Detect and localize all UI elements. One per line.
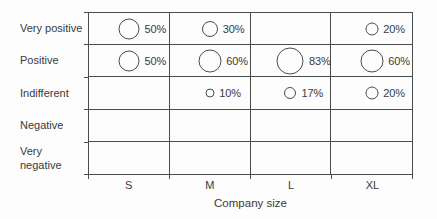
column-label: M <box>169 179 250 191</box>
x-axis-title: Company size <box>88 197 413 209</box>
bubble-value-label: 60% <box>388 55 410 67</box>
grid-cell <box>251 13 332 45</box>
bubble-value-label: 17% <box>301 87 323 99</box>
grid-cell: 17% <box>251 77 332 109</box>
bubble-value-label: 60% <box>226 55 248 67</box>
grid-cell <box>251 142 332 174</box>
bubble-value-label: 50% <box>144 55 166 67</box>
x-axis-labels: SMLXL <box>88 179 413 191</box>
bubble <box>360 49 383 72</box>
y-axis-labels: Very positivePositiveIndifferentNegative… <box>0 12 88 175</box>
grid-cell <box>170 142 251 174</box>
bubble-value-label: 10% <box>219 87 241 99</box>
bubble <box>198 49 221 72</box>
bubble <box>118 18 139 39</box>
grid-cell <box>331 110 412 142</box>
grid-cell: 60% <box>331 45 412 77</box>
bubble-value-label: 20% <box>383 87 405 99</box>
grid-cell: 60% <box>170 45 251 77</box>
bubble <box>202 21 218 37</box>
bubble <box>277 47 304 74</box>
grid-cell <box>89 77 170 109</box>
bubble <box>118 50 139 71</box>
grid-cell: 30% <box>170 13 251 45</box>
grid-cell <box>89 142 170 174</box>
bubble <box>205 88 214 97</box>
grid-cell: 20% <box>331 77 412 109</box>
column-label: S <box>88 179 169 191</box>
bubble <box>365 22 378 35</box>
bubble-matrix-chart: Very positivePositiveIndifferentNegative… <box>0 0 437 219</box>
grid-cell <box>331 142 412 174</box>
row-label: Negative <box>0 110 88 143</box>
row-label: Positive <box>0 45 88 78</box>
row-label: Indifferent <box>0 77 88 110</box>
grid-cell: 20% <box>331 13 412 45</box>
bubble <box>284 87 296 99</box>
row-label: Very positive <box>0 12 88 45</box>
column-label: L <box>251 179 332 191</box>
bubble-value-label: 20% <box>383 23 405 35</box>
grid-cell: 10% <box>170 77 251 109</box>
grid-cell <box>251 110 332 142</box>
grid-cell: 50% <box>89 13 170 45</box>
chart-grid: 50%30%20%50%60%83%60%10%17%20% <box>88 12 413 175</box>
bubble-value-label: 50% <box>144 23 166 35</box>
bubble-value-label: 30% <box>223 23 245 35</box>
column-label: XL <box>332 179 413 191</box>
row-label: Very negative <box>0 142 88 175</box>
grid-cell: 50% <box>89 45 170 77</box>
grid-cell: 83% <box>251 45 332 77</box>
bubble-value-label: 83% <box>309 55 331 67</box>
grid-cell <box>89 110 170 142</box>
bubble <box>365 86 378 99</box>
grid-cell <box>170 110 251 142</box>
